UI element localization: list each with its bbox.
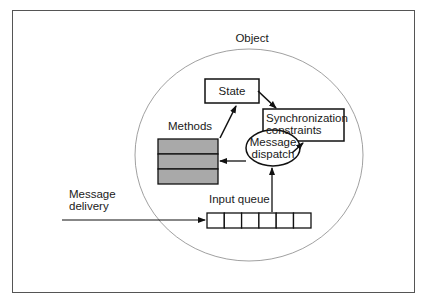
methods-stack [158,139,218,184]
sync-label-line2: constraints [266,124,322,136]
input-queue [207,213,311,228]
input-queue-label: Input queue [209,193,270,205]
dispatch-label-line2: dispatch [246,148,300,160]
sync-label-line1: Synchronization [266,112,348,124]
arrow-state-to-sync [258,91,276,108]
methods-label: Methods [168,120,212,132]
arrow-methods-to-state [220,106,236,138]
object-label: Object [230,32,274,44]
state-label: State [205,85,259,97]
delivery-label-line2: delivery [69,200,109,212]
delivery-label-line1: Message [69,188,116,200]
diagram-canvas [0,0,425,305]
dispatch-label-line1: Message [246,136,300,148]
